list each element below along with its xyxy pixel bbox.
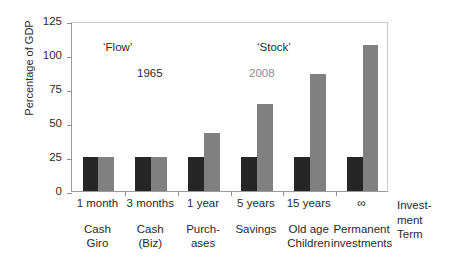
plot-area: ‘Flow’ ‘Stock’ 1965 2008 0255075100125: [71, 22, 388, 192]
x-label-name: Permanent investments: [319, 222, 404, 251]
x-label-term: ∞: [319, 196, 404, 211]
bar-1965: [135, 157, 151, 191]
y-tick-label: 125: [22, 15, 62, 27]
bar-chart: Percentage of GDP ‘Flow’ ‘Stock’ 1965 20…: [0, 0, 453, 261]
bar-2008: [310, 74, 326, 191]
bar-group: [294, 23, 326, 191]
y-tick-mark: [67, 193, 72, 194]
bar-1965: [347, 157, 363, 191]
y-tick-mark: [67, 23, 72, 24]
bar-group: [135, 23, 167, 191]
bar-1965: [241, 157, 257, 191]
y-tick-label: 25: [22, 151, 62, 163]
bar-1965: [83, 157, 99, 191]
bar-group: [188, 23, 220, 191]
y-tick-mark: [67, 91, 72, 92]
y-tick-label: 50: [22, 117, 62, 129]
bar-2008: [98, 157, 114, 191]
bar-2008: [151, 157, 167, 191]
bar-group: [83, 23, 115, 191]
bar-2008: [363, 45, 379, 191]
bar-2008: [257, 104, 273, 191]
x-axis-labels: 1 monthCash Giro3 monthsCash (Biz)1 year…: [71, 196, 388, 258]
y-tick-label: 100: [22, 49, 62, 61]
x-axis-caption: Invest- ment Term: [397, 198, 453, 242]
bar-1965: [294, 157, 310, 191]
y-tick-mark: [67, 125, 72, 126]
y-tick-mark: [67, 57, 72, 58]
y-tick-mark: [67, 159, 72, 160]
bar-2008: [204, 133, 220, 191]
y-tick-label: 75: [22, 83, 62, 95]
bar-1965: [188, 157, 204, 191]
x-axis-label-5: ∞Permanent investments: [319, 196, 404, 251]
bar-group: [347, 23, 379, 191]
bar-group: [241, 23, 273, 191]
